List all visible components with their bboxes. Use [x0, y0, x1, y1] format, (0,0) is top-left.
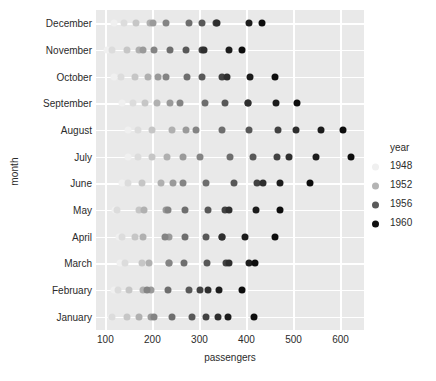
data-point — [252, 260, 259, 267]
x-tick-100: 100 — [85, 334, 125, 345]
legend-label: 1956 — [390, 198, 412, 209]
data-point — [196, 287, 203, 294]
data-point — [181, 233, 188, 240]
data-point — [197, 153, 204, 160]
data-point — [164, 287, 171, 294]
legend-swatch-icon — [372, 221, 379, 228]
data-point — [108, 47, 115, 54]
data-point — [251, 313, 258, 320]
data-point — [306, 180, 313, 187]
y-gridline-september — [96, 103, 364, 104]
data-point — [140, 47, 147, 54]
legend-label: 1948 — [390, 160, 412, 171]
data-point — [166, 47, 173, 54]
data-point — [157, 180, 164, 187]
y-tick-april: April — [6, 231, 92, 242]
legend-swatch-icon — [372, 164, 379, 171]
data-point — [149, 20, 156, 27]
data-point — [245, 100, 252, 107]
legend-item-1948: 1948 — [368, 158, 434, 177]
data-point — [125, 287, 132, 294]
data-point — [203, 313, 210, 320]
data-point — [119, 100, 126, 107]
x-tick-300: 300 — [179, 334, 219, 345]
data-point — [313, 153, 320, 160]
data-point — [219, 233, 226, 240]
x-axis-label: passengers — [96, 352, 364, 363]
y-tick-november: November — [6, 45, 92, 56]
data-point — [182, 207, 189, 214]
x-gridline-500 — [293, 10, 294, 330]
x-tick-600: 600 — [320, 334, 360, 345]
data-point — [145, 73, 152, 80]
data-point — [203, 180, 210, 187]
data-point — [245, 127, 252, 134]
data-point — [224, 73, 231, 80]
data-point — [124, 127, 131, 134]
y-tick-august: August — [6, 125, 92, 136]
data-point — [184, 73, 191, 80]
x-tick-400: 400 — [226, 334, 266, 345]
data-point — [148, 153, 155, 160]
data-point — [131, 73, 138, 80]
data-point — [169, 180, 176, 187]
legend-item-1960: 1960 — [368, 215, 434, 234]
data-point — [193, 127, 200, 134]
data-point — [215, 313, 222, 320]
data-point — [277, 207, 284, 214]
data-point — [183, 127, 190, 134]
data-point — [140, 233, 147, 240]
data-point — [141, 100, 148, 107]
data-point — [135, 313, 142, 320]
data-point — [252, 207, 259, 214]
data-point — [166, 100, 173, 107]
data-point — [259, 180, 266, 187]
data-point — [169, 127, 176, 134]
data-point — [114, 207, 121, 214]
data-point — [222, 100, 229, 107]
legend-item-1952: 1952 — [368, 177, 434, 196]
data-point — [185, 287, 192, 294]
data-point — [135, 127, 142, 134]
data-point — [182, 47, 189, 54]
data-point — [213, 20, 220, 27]
data-point — [151, 313, 158, 320]
data-point — [272, 73, 279, 80]
flights-scatter-figure: month DecemberNovemberOctoberSeptemberAu… — [0, 0, 436, 381]
data-point — [139, 260, 146, 267]
data-point — [225, 47, 232, 54]
y-tick-july: July — [6, 151, 92, 162]
data-point — [177, 100, 184, 107]
data-point — [277, 180, 284, 187]
data-point — [125, 180, 132, 187]
data-point — [179, 180, 186, 187]
plot-area — [96, 10, 364, 330]
data-point — [146, 260, 153, 267]
data-point — [204, 260, 211, 267]
data-point — [129, 100, 136, 107]
data-point — [162, 233, 169, 240]
y-tick-march: March — [6, 258, 92, 269]
x-gridline-300 — [199, 10, 200, 330]
data-point — [123, 313, 130, 320]
x-gridline-600 — [340, 10, 341, 330]
legend-title: year — [390, 142, 409, 153]
data-point — [186, 20, 193, 27]
data-point — [226, 207, 233, 214]
legend-label: 1960 — [390, 217, 412, 228]
data-point — [202, 233, 209, 240]
data-point — [139, 180, 146, 187]
data-point — [274, 127, 281, 134]
data-point — [110, 20, 117, 27]
data-point — [224, 313, 231, 320]
y-gridline-february — [96, 290, 364, 291]
data-point — [286, 153, 293, 160]
data-point — [179, 153, 186, 160]
data-point — [163, 73, 170, 80]
data-point — [154, 73, 161, 80]
data-point — [135, 153, 142, 160]
x-gridline-200 — [152, 10, 153, 330]
data-point — [231, 180, 238, 187]
data-point — [274, 153, 281, 160]
data-point — [318, 127, 325, 134]
